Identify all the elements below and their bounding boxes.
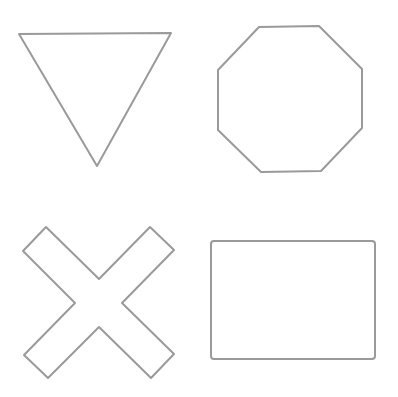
rectangle-shape — [211, 241, 375, 359]
x-cross-shape — [23, 227, 174, 378]
triangle-shape — [19, 33, 171, 166]
octagon-shape — [218, 26, 362, 172]
shapes-canvas — [0, 0, 398, 397]
